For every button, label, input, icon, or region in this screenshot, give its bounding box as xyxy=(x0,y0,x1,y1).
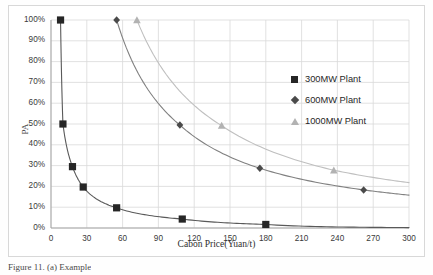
legend-item-600mw: 600MW Plant xyxy=(289,89,424,110)
y-tick-label: 80% xyxy=(15,56,45,65)
y-tick-label: 100% xyxy=(15,15,45,24)
chart-frame: 0%10%20%30%40%50%60%70%80%90%100% 030609… xyxy=(8,5,425,257)
y-tick-label: 0% xyxy=(15,223,45,232)
chart-legend: 300MW Plant 600MW Plant 1000MW Plant xyxy=(289,68,424,131)
y-tick-label: 10% xyxy=(15,202,45,211)
legend-label-300mw: 300MW Plant xyxy=(305,74,361,84)
y-tick-label: 30% xyxy=(15,160,45,169)
diamond-marker-icon xyxy=(289,94,301,106)
figure-root: 0%10%20%30%40%50%60%70%80%90%100% 030609… xyxy=(0,0,433,275)
y-axis-title: PA xyxy=(20,109,30,149)
legend-item-300mw: 300MW Plant xyxy=(289,68,424,89)
figure-caption: Figure 11. (a) Example xyxy=(8,262,91,275)
x-axis-title: Cabon Price(Yuan/t) xyxy=(0,239,433,249)
legend-label-600mw: 600MW Plant xyxy=(305,95,361,105)
y-tick-label: 60% xyxy=(15,98,45,107)
legend-item-1000mw: 1000MW Plant xyxy=(289,110,424,131)
y-tick-label: 70% xyxy=(15,77,45,86)
y-tick-label: 20% xyxy=(15,181,45,190)
chart-plot-area xyxy=(9,6,424,256)
triangle-marker-icon xyxy=(289,115,301,127)
y-tick-label: 90% xyxy=(15,35,45,44)
legend-label-1000mw: 1000MW Plant xyxy=(305,116,366,126)
square-marker-icon xyxy=(289,73,301,85)
